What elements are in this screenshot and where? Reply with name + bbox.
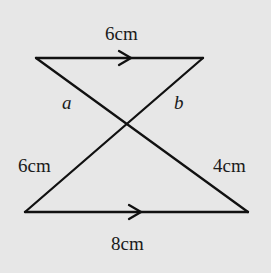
transversal-line-b	[25, 58, 203, 212]
variable-b-label: b	[174, 92, 184, 113]
right-lower-length-label: 4cm	[213, 155, 246, 176]
left-lower-length-label: 6cm	[18, 155, 51, 176]
similar-triangles-diagram: 6cm 8cm 6cm 4cm a b	[0, 0, 271, 273]
transversal-line-a	[36, 58, 248, 212]
top-length-label: 6cm	[105, 23, 138, 44]
variable-a-label: a	[62, 92, 72, 113]
bottom-length-label: 8cm	[111, 233, 144, 254]
